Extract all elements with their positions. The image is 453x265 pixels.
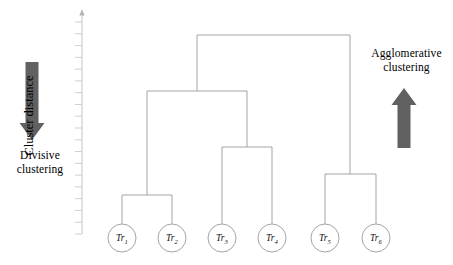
y-axis xyxy=(75,9,85,234)
leaf-node-Tr4: Tr4 xyxy=(258,224,286,252)
leaf-nodes: Tr1Tr2Tr3Tr4Tr5Tr6 xyxy=(108,224,390,252)
axis-arrowhead-icon xyxy=(79,9,84,16)
divisive-clustering-label: Divisive clustering xyxy=(0,148,80,177)
diagram-canvas: Tr1Tr2Tr3Tr4Tr5Tr6 xyxy=(0,0,453,265)
divisive-label-line2: clustering xyxy=(0,162,80,176)
leaf-node-Tr6: Tr6 xyxy=(362,224,390,252)
agglomerative-label-line2: clustering xyxy=(360,60,453,74)
leaf-node-Tr5: Tr5 xyxy=(311,224,339,252)
agglomerative-label-line1: Agglomerative xyxy=(360,46,453,60)
agglomerative-clustering-label: Agglomerative clustering xyxy=(360,46,453,75)
leaf-node-Tr2: Tr2 xyxy=(158,224,186,252)
dendrogram-figure: Tr1Tr2Tr3Tr4Tr5Tr6 Cluster distance Divi… xyxy=(0,0,453,265)
divisive-label-line1: Divisive xyxy=(0,148,80,162)
direction-arrows xyxy=(20,62,417,148)
agglomerative-up-arrow-icon xyxy=(392,88,417,148)
leaf-node-Tr3: Tr3 xyxy=(208,224,236,252)
leaf-node-Tr1: Tr1 xyxy=(108,224,136,252)
dendrogram-tree xyxy=(122,35,376,224)
